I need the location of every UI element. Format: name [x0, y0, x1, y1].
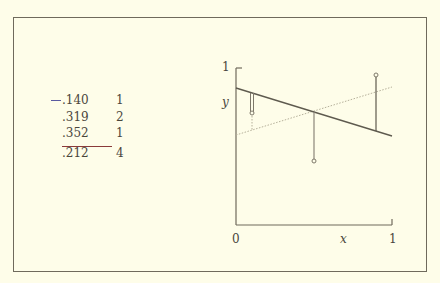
- x-tick-label: 0: [232, 232, 240, 246]
- y-tick-label: 1: [222, 60, 230, 74]
- y-axis-label: y: [222, 95, 229, 109]
- data-point: [312, 159, 316, 163]
- scatter-plot: [0, 0, 440, 283]
- x-axis-label: x: [340, 232, 347, 246]
- x-tick-label: 1: [389, 232, 397, 246]
- data-point: [374, 73, 378, 77]
- data-point: [250, 111, 254, 115]
